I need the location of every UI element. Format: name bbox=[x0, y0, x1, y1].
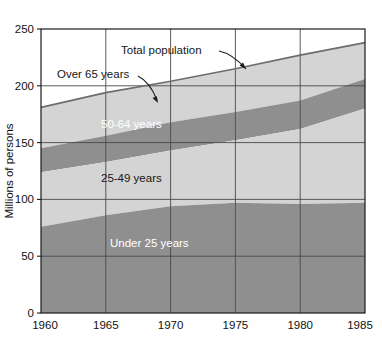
x-axis-tick-labels: 196019651970197519801985 bbox=[32, 319, 373, 331]
y-axis-title: Millions of persons bbox=[3, 123, 15, 218]
annotation-band-50-64-label: 50-64 years bbox=[101, 118, 162, 130]
annotation-over-65-label: Over 65 years bbox=[57, 68, 129, 80]
chart-canvas: 050100150200250 196019651970197519801985… bbox=[0, 0, 382, 346]
y-tick-label-100: 100 bbox=[15, 193, 34, 205]
y-tick-label-0: 0 bbox=[28, 307, 34, 319]
y-tick-label-150: 150 bbox=[15, 137, 34, 149]
x-tick-label-1960: 1960 bbox=[32, 319, 58, 331]
x-tick-label-1985: 1985 bbox=[347, 319, 373, 331]
y-tick-label-50: 50 bbox=[21, 250, 34, 262]
y-tick-label-200: 200 bbox=[15, 80, 34, 92]
x-tick-label-1975: 1975 bbox=[223, 319, 249, 331]
x-tick-label-1965: 1965 bbox=[93, 319, 119, 331]
x-tick-label-1970: 1970 bbox=[158, 319, 184, 331]
population-area-chart: 050100150200250 196019651970197519801985… bbox=[0, 0, 382, 346]
y-tick-label-250: 250 bbox=[15, 23, 34, 35]
annotation-band-under-25-label: Under 25 years bbox=[110, 237, 189, 249]
area-band-under-25 bbox=[41, 203, 365, 313]
x-tick-label-1980: 1980 bbox=[287, 319, 313, 331]
y-axis-tick-labels: 050100150200250 bbox=[15, 23, 34, 319]
annotation-total-population-label: Total population bbox=[121, 44, 202, 56]
annotation-band-25-49-label: 25-49 years bbox=[101, 172, 162, 184]
